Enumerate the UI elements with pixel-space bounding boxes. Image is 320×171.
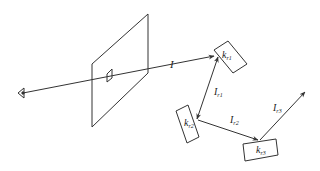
reflected-ray-3 bbox=[260, 92, 305, 140]
surface-k-r2: kr2 bbox=[176, 105, 199, 143]
ray-label-i-r3: Ir3 bbox=[272, 102, 282, 114]
incident-ray bbox=[23, 56, 214, 93]
ray-tracing-diagram: I kr1 Ir1 kr2 Ir2 kr3 Ir3 bbox=[0, 0, 320, 171]
surface-k-r1: kr1 bbox=[214, 41, 247, 73]
surface-k-r3: kr3 bbox=[243, 139, 278, 161]
reflected-ray-2 bbox=[198, 120, 258, 140]
ray-label-i-r2: Ir2 bbox=[229, 114, 239, 126]
ray-label-i-r1: Ir1 bbox=[213, 86, 223, 98]
